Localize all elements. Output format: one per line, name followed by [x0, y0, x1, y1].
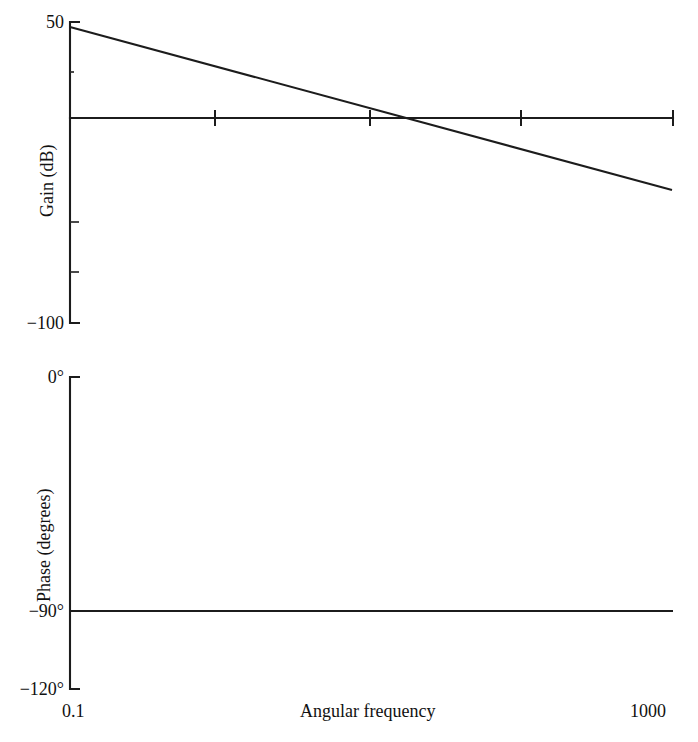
x-axis-right-tick-label: 1000 — [630, 702, 666, 720]
phase-y-axis-title: Phase (degrees) — [35, 489, 53, 602]
phase-y-top-tick-label: 0° — [24, 368, 64, 386]
phase-y-bottom-tick-label: −120° — [0, 680, 64, 698]
gain-y-top-tick-label: 50 — [24, 13, 64, 31]
x-axis-left-tick-label: 0.1 — [62, 702, 85, 720]
plot-canvas — [0, 0, 698, 742]
phase-y-mid-tick-label: −90° — [0, 602, 64, 620]
phase-panel — [70, 377, 673, 689]
gain-panel — [70, 22, 673, 323]
gain-curve — [70, 27, 672, 190]
gain-y-axis-title: Gain (dB) — [38, 145, 56, 217]
gain-y-bottom-tick-label: −100 — [0, 314, 64, 332]
bode-plot-figure: 50 −100 Gain (dB) 0° −90° −120° Phase (d… — [0, 0, 698, 742]
x-axis-title: Angular frequency — [300, 702, 435, 720]
